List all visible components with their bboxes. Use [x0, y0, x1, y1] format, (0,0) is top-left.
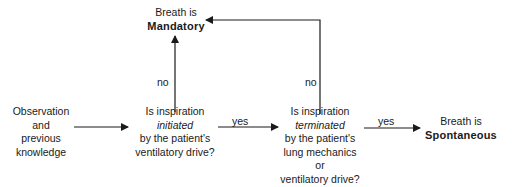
spontaneous-result: Spontaneous	[418, 129, 504, 143]
start-line-4: knowledge	[6, 146, 76, 160]
start-line-2: and	[6, 119, 76, 133]
node-q1-initiated: Is inspiration initiated by the patient'…	[128, 105, 222, 159]
q2-line-3: by the patient's	[273, 132, 367, 146]
start-line-1: Observation	[6, 105, 76, 119]
q1-line-3: by the patient's	[128, 132, 222, 146]
mandatory-result: Mandatory	[140, 20, 212, 34]
q2-line-6: ventilatory drive?	[273, 173, 367, 187]
node-start: Observation and previous knowledge	[6, 105, 76, 159]
arrow-q2-no-to-mandatory	[206, 20, 320, 114]
spontaneous-prefix: Breath is	[418, 115, 504, 129]
q2-line-4: lung mechanics	[273, 146, 367, 160]
edge-label-q2-yes: yes	[378, 115, 394, 127]
q2-emphasis: terminated	[273, 119, 367, 133]
q1-emphasis: initiated	[128, 119, 222, 133]
edge-label-q2-no: no	[305, 76, 317, 88]
start-line-3: previous	[6, 132, 76, 146]
node-spontaneous: Breath is Spontaneous	[418, 115, 504, 142]
q1-line-1: Is inspiration	[128, 105, 222, 119]
q1-line-4: ventilatory drive?	[128, 146, 222, 160]
edge-label-q1-no: no	[157, 76, 169, 88]
q2-line-5: or	[273, 159, 367, 173]
mandatory-prefix: Breath is	[140, 6, 212, 20]
q2-line-1: Is inspiration	[273, 105, 367, 119]
node-q2-terminated: Is inspiration terminated by the patient…	[273, 105, 367, 186]
edge-label-q1-yes: yes	[232, 115, 248, 127]
node-mandatory: Breath is Mandatory	[140, 6, 212, 33]
flowchart-connectors	[0, 0, 512, 186]
